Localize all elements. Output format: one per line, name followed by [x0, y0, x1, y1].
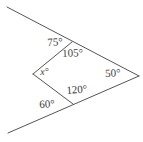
- angle-label-60: 60°: [39, 98, 55, 110]
- angle-label-105: 105°: [62, 47, 83, 59]
- geometry-lines: [0, 0, 143, 142]
- angle-label-50: 50°: [105, 67, 121, 79]
- angle-label-x: x°: [40, 67, 49, 77]
- angle-label-120: 120°: [66, 84, 88, 96]
- geometry-figure: 75° 105° x° 50° 120° 60°: [0, 0, 143, 142]
- angle-label-75: 75°: [47, 36, 63, 48]
